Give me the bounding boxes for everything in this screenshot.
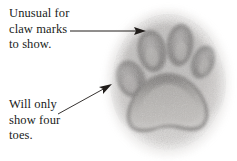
arrowhead-four-toes [99,84,112,94]
annotation-toes-line-2: show four [9,113,60,129]
annotation-claw-line-1: Unusual for [9,6,69,22]
track-illustration-figure: Unusual for claw marks to show. Will onl… [0,0,237,161]
leader-line-claw-marks [70,27,146,35]
annotation-claw-marks: Unusual for claw marks to show. [9,6,69,53]
annotation-four-toes: Will only show four toes. [9,97,60,144]
annotation-claw-line-3: to show. [9,37,69,53]
annotation-toes-line-1: Will only [9,97,60,113]
leader-line-four-toes [58,84,112,114]
annotation-toes-line-3: toes. [9,128,60,144]
annotation-claw-line-2: claw marks [9,22,69,38]
